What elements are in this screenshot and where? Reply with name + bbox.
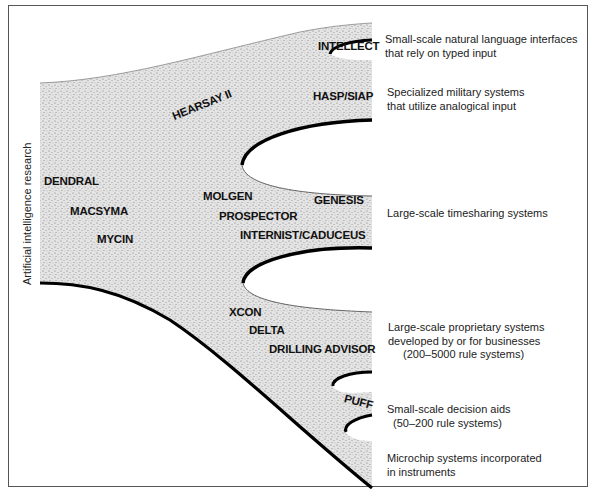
system-macsyma: MACSYMA [70, 205, 128, 217]
system-molgen: MOLGEN [203, 190, 252, 202]
branch-line: (50–200 rule systems) [387, 417, 511, 431]
branch-line: Small-scale decision aids [387, 403, 511, 417]
system-genesis: GENESIS [314, 194, 364, 206]
branch-line: (200–5000 rule systems) [388, 348, 545, 362]
branch-proprietary: Large-scale proprietary systems develope… [388, 321, 545, 362]
branch-line: that rely on typed input [385, 47, 578, 61]
branch-natural-language: Small-scale natural language interfaces … [385, 33, 578, 60]
system-hasp-siap: HASP/SIAP [313, 90, 373, 102]
branch-decision-aids: Small-scale decision aids (50–200 rule s… [387, 403, 511, 430]
branch-line: Microchip systems incorporated [387, 452, 542, 466]
branch-microchip: Microchip systems incorporated in instru… [387, 452, 542, 479]
branch-line: that utilize analogical input [387, 100, 525, 114]
branch-timesharing: Large-scale timesharing systems [387, 207, 548, 221]
branch-line: Specialized military systems [387, 86, 525, 100]
system-dendral: DENDRAL [44, 175, 99, 187]
branch-line: Large-scale timesharing systems [387, 207, 548, 221]
system-mycin: MYCIN [97, 233, 133, 245]
system-prospector: PROSPECTOR [219, 210, 297, 222]
branch-line: developed by or for businesses [388, 335, 545, 349]
branch-line: Small-scale natural language interfaces [385, 33, 578, 47]
system-internist-caduceus: INTERNIST/CADUCEUS [240, 229, 365, 241]
axis-label: Artificial intelligence research [21, 143, 33, 285]
system-xcon: XCON [229, 306, 261, 318]
system-drilling-advisor: DRILLING ADVISOR [269, 343, 375, 355]
branch-line: in instruments [387, 466, 542, 480]
branch-military: Specialized military systems that utiliz… [387, 86, 525, 113]
branch-line: Large-scale proprietary systems [388, 321, 545, 335]
system-intellect: INTELLECT [318, 40, 379, 52]
system-delta: DELTA [249, 324, 285, 336]
